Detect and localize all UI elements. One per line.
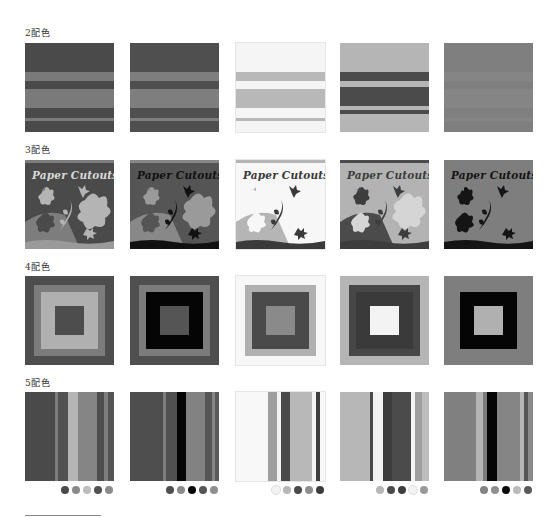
color-dot <box>316 486 324 494</box>
color-dot <box>305 486 313 494</box>
color-dot <box>72 486 80 494</box>
color-dot <box>376 486 384 494</box>
center-square <box>266 306 295 335</box>
color-dot <box>283 486 291 494</box>
five-color-swatch <box>25 392 114 481</box>
two-color-swatch <box>236 43 325 132</box>
vertical-stripe <box>25 392 56 481</box>
nested-squares-swatch <box>444 276 533 365</box>
color-dot <box>272 486 280 494</box>
color-dot <box>409 486 417 494</box>
cutout-title-text: Paper Cutouts <box>137 169 219 181</box>
vertical-stripe <box>422 392 429 481</box>
vertical-stripe <box>497 392 521 481</box>
color-dot <box>199 486 207 494</box>
stripe <box>444 72 533 81</box>
two-color-swatch <box>340 43 429 132</box>
paper-cutouts-swatch: Paper Cutouts <box>236 160 325 249</box>
color-dot <box>480 486 488 494</box>
stripe <box>25 89 114 108</box>
color-palette-dots <box>376 486 428 494</box>
paper-cutouts-swatch: Paper Cutouts <box>130 160 219 249</box>
color-dot <box>210 486 218 494</box>
paper-cutouts-swatch: Paper Cutouts <box>340 160 429 249</box>
color-palette-dots <box>61 486 113 494</box>
color-dot <box>524 486 532 494</box>
color-dot <box>94 486 102 494</box>
five-color-swatch <box>340 392 429 481</box>
five-color-swatch <box>236 392 325 481</box>
center-square <box>55 306 84 335</box>
stripe <box>130 72 219 81</box>
center-square <box>160 306 189 335</box>
section-label-4-colors: 4配色 <box>25 260 50 273</box>
section-label-2-colors: 2配色 <box>25 26 50 39</box>
paper-cutouts-swatch: Paper Cutouts <box>444 160 533 249</box>
vertical-stripe <box>186 392 206 481</box>
paper-cutouts-swatch: Paper Cutouts <box>25 160 114 249</box>
vertical-stripe <box>130 392 164 481</box>
vertical-stripe <box>68 392 79 481</box>
stripe <box>236 72 325 81</box>
vertical-stripe <box>487 392 498 481</box>
color-dot <box>387 486 395 494</box>
vertical-stripe <box>108 392 114 481</box>
color-dot <box>188 486 196 494</box>
nested-squares-swatch <box>130 276 219 365</box>
section-label-3-colors: 3配色 <box>25 143 50 156</box>
stripe <box>236 118 325 121</box>
vertical-stripe <box>236 392 269 481</box>
center-square <box>370 306 399 335</box>
section-label-5-colors: 5配色 <box>25 376 50 389</box>
vertical-stripe <box>290 392 313 481</box>
color-dot <box>61 486 69 494</box>
vertical-stripe <box>78 392 98 481</box>
vertical-stripe <box>392 392 412 481</box>
cutout-title-text: Paper Cutouts <box>451 169 533 181</box>
color-dot <box>491 486 499 494</box>
stripe <box>236 89 325 108</box>
two-color-swatch <box>25 43 114 132</box>
stripe <box>25 72 114 81</box>
vertical-stripe <box>373 392 384 481</box>
cutout-title-text: Paper Cutouts <box>243 169 325 181</box>
stripe <box>340 110 429 114</box>
five-color-swatch <box>130 392 219 481</box>
stripe <box>130 89 219 108</box>
stripe <box>25 118 114 121</box>
color-palette-dots <box>272 486 324 494</box>
stripe <box>340 87 429 106</box>
color-dot <box>513 486 521 494</box>
color-dot <box>166 486 174 494</box>
color-palette-dots <box>166 486 218 494</box>
nested-squares-swatch <box>340 276 429 365</box>
cutout-title-text: Paper Cutouts <box>347 169 429 181</box>
color-palette-dots <box>480 486 532 494</box>
two-color-swatch <box>444 43 533 132</box>
color-dot <box>83 486 91 494</box>
five-color-swatch <box>444 392 533 481</box>
stripe <box>130 118 219 121</box>
center-square <box>474 306 503 335</box>
footnote-rule <box>25 515 101 516</box>
vertical-stripe <box>444 392 477 481</box>
vertical-stripe <box>215 392 219 481</box>
color-dot <box>294 486 302 494</box>
cutout-title-text: Paper Cutouts <box>32 169 114 181</box>
vertical-stripe <box>58 392 69 481</box>
vertical-stripe <box>340 392 371 481</box>
color-dot <box>105 486 113 494</box>
color-dot <box>177 486 185 494</box>
stripe <box>444 118 533 121</box>
vertical-stripe <box>528 392 533 481</box>
stripe <box>340 72 429 81</box>
nested-squares-swatch <box>25 276 114 365</box>
color-dot <box>502 486 510 494</box>
color-dot <box>398 486 406 494</box>
two-color-swatch <box>130 43 219 132</box>
vertical-stripe <box>320 392 325 481</box>
stripe <box>444 89 533 108</box>
color-dot <box>420 486 428 494</box>
vertical-stripe <box>166 392 178 481</box>
nested-squares-swatch <box>236 276 325 365</box>
